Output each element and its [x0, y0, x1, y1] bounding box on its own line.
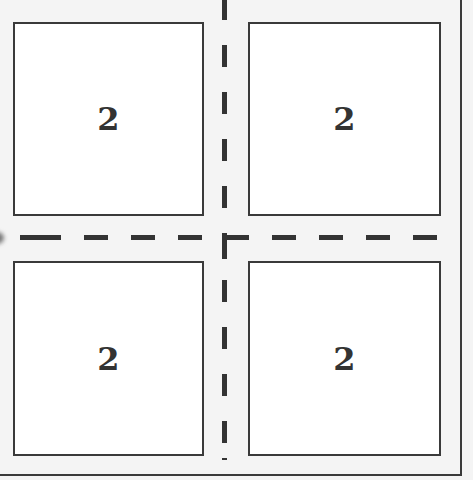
divider-corner-vertical	[222, 235, 227, 259]
panel-top-left: 2	[13, 22, 204, 216]
panel-label: 2	[97, 100, 119, 138]
panel-bottom-right: 2	[248, 261, 441, 456]
horizontal-dashed-divider	[0, 235, 440, 240]
vertical-dashed-divider	[222, 0, 227, 460]
panel-bottom-left: 2	[13, 261, 204, 456]
panel-label: 2	[333, 340, 355, 378]
panel-label: 2	[333, 100, 355, 138]
panel-label: 2	[97, 340, 119, 378]
panel-top-right: 2	[248, 22, 441, 216]
